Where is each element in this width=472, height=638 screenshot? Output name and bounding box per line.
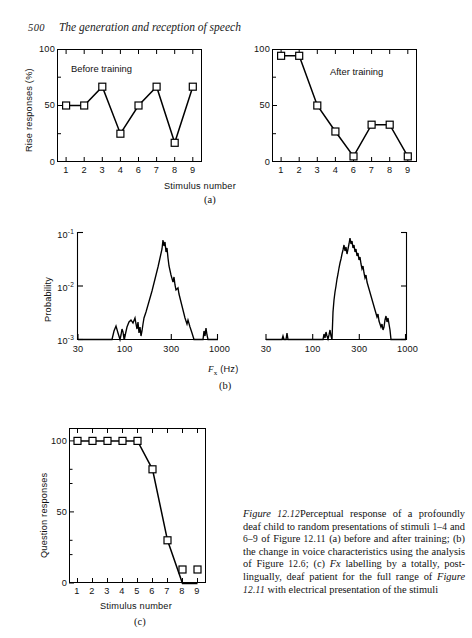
- chart-question-responses-ytick-100: 100: [43, 436, 67, 446]
- chart-after-training-xtick-9: 9: [399, 165, 417, 175]
- caption-figure-label: Figure: [243, 508, 271, 519]
- chart-question-responses-xtick-6: 6: [144, 586, 160, 596]
- chart-before-training-ytick-100: 100: [31, 44, 55, 54]
- chart-before-training-ytick-50: 50: [31, 100, 55, 110]
- chart-after-training-xtick-8: 8: [381, 165, 399, 175]
- caption-stimuli-range-2: 6–9: [243, 534, 258, 544]
- chart-after-training-xtick-1: 1: [272, 165, 290, 175]
- running-head: 500The generation and reception of speec…: [28, 21, 241, 33]
- chart-before-training-ytick-0: 0: [31, 157, 55, 167]
- chart-fx-before-ytick-1e-2: 10-2: [46, 281, 74, 293]
- folio-number: 500: [28, 22, 45, 33]
- chart-after-training-xtick-6: 6: [344, 165, 362, 175]
- chart-after-training-xtick-4: 4: [326, 165, 344, 175]
- chart-question-responses-xtick-8: 8: [174, 586, 190, 596]
- figure-a-ylabel: Rise responses (%): [24, 68, 34, 152]
- chart-fx-before-ytick-1e-1: 10-1: [46, 228, 74, 240]
- chart-fx-after-xtick-30: 30: [254, 344, 278, 354]
- chart-question-responses-xtick-3: 3: [99, 586, 115, 596]
- chart-question-responses-xtick-7: 7: [159, 586, 175, 596]
- caption-figure-ref-1: 12.11: [304, 534, 326, 544]
- caption-figure-ref-3: 12.11: [243, 585, 265, 595]
- chart-question-responses-xtick-4: 4: [114, 586, 130, 596]
- chart-after-training-xtick-2: 2: [290, 165, 308, 175]
- caption-figure-word: Figure: [437, 571, 465, 582]
- chart-question-responses-xtick-1: 1: [69, 586, 85, 596]
- chart-before-training-xtick-7: 7: [148, 165, 166, 175]
- figure-b-xlabel-unit: (Hz): [218, 364, 239, 374]
- chart-after-training-plot: [272, 49, 417, 162]
- caption-text-9: ; (c): [306, 558, 330, 569]
- caption-text-14: with electrical presentation of the stim…: [265, 584, 438, 595]
- chart-fx-before-xtick-300: 300: [159, 344, 183, 354]
- caption-text-5: of Figure: [258, 533, 304, 544]
- caption-fx-symbol: Fx: [330, 558, 341, 569]
- chart-fx-after-xtick-300: 300: [347, 344, 371, 354]
- chart-before-training-plot: [57, 49, 202, 162]
- chart-after-training-ytick-0: 0: [246, 157, 270, 167]
- chart-before-training-xtick-9: 9: [184, 165, 202, 175]
- chart-fx-before-xtick-100: 100: [113, 344, 137, 354]
- figure-a-sublabel: (a): [204, 194, 216, 205]
- chart-question-responses-ytick-0: 0: [43, 578, 67, 588]
- chart-fx-before-xtick-30: 30: [66, 344, 90, 354]
- chart-question-responses-xtick-9: 9: [189, 586, 205, 596]
- chart-after-training-xtick-3: 3: [308, 165, 326, 175]
- chart-fx-after-xtick-1000: 1000: [394, 344, 422, 354]
- chart-after-training-ytick-50: 50: [246, 100, 270, 110]
- chart-question-responses-ytick-50: 50: [43, 507, 67, 517]
- chart-question-responses-plot: [69, 428, 206, 583]
- caption-stimuli-range-1: 1–4: [432, 522, 447, 532]
- figure-b-xlabel: Fx (Hz): [208, 364, 238, 377]
- chart-fx-after-plot: [265, 232, 407, 349]
- chart-before-training-xtick-4: 4: [111, 165, 129, 175]
- caption-figure-ref-2: 12.6: [288, 559, 306, 569]
- chart-before-training-xtick-8: 8: [166, 165, 184, 175]
- figure-c-xlabel: Stimulus number: [100, 601, 172, 611]
- chart-before-training-xtick-2: 2: [75, 165, 93, 175]
- chart-before-training-xtick-3: 3: [93, 165, 111, 175]
- book-page: 500The generation and reception of speec…: [0, 0, 472, 638]
- caption-figure-number: 12.12: [277, 509, 300, 519]
- chart-question-responses-xtick-2: 2: [84, 586, 100, 596]
- chart-before-training-xtick-6: 6: [129, 165, 147, 175]
- caption-text-3: and: [447, 521, 465, 532]
- chart-after-training-xtick-7: 7: [363, 165, 381, 175]
- figure-caption: Figure 12.12Perceptual response of a pro…: [243, 508, 465, 596]
- figure-b-sublabel: (b): [219, 380, 231, 391]
- figure-c-sublabel: (c): [134, 616, 146, 627]
- chart-fx-after-xtick-100: 100: [301, 344, 325, 354]
- chart-question-responses-xtick-5: 5: [129, 586, 145, 596]
- running-head-title: The generation and reception of speech: [59, 21, 241, 33]
- figure-a-xlabel: Stimulus number: [164, 181, 236, 191]
- chart-fx-before-plot: [77, 232, 219, 349]
- chart-fx-before-xtick-1000: 1000: [206, 344, 234, 354]
- chart-after-training-ytick-100: 100: [246, 44, 270, 54]
- chart-before-training-xtick-1: 1: [57, 165, 75, 175]
